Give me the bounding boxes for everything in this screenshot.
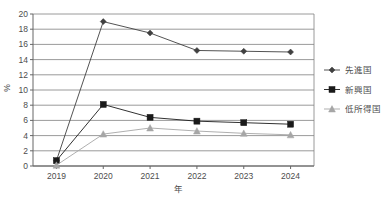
data-series-group: [53, 19, 294, 169]
x-tick-label: 2023: [234, 171, 253, 181]
data-point-marker: [288, 49, 294, 55]
data-point-marker: [147, 30, 153, 36]
legend-marker-icon: [329, 67, 335, 73]
data-point-marker: [100, 19, 106, 25]
chart-container: 02468101214161820 2019202020212022202320…: [0, 0, 392, 198]
plot-gridlines: [33, 14, 314, 166]
y-tick-label: 10: [19, 85, 29, 95]
data-point-marker: [241, 120, 247, 126]
legend-label: 先進国: [345, 65, 372, 75]
data-point-marker: [100, 101, 106, 107]
legend-label: 新興国: [345, 85, 372, 95]
legend-marker-icon: [329, 87, 335, 93]
data-point-marker: [194, 47, 200, 53]
x-tick-label: 2021: [141, 171, 160, 181]
x-axis-title: 年: [174, 184, 183, 194]
data-point-marker: [241, 48, 247, 54]
x-tick-label: 2020: [94, 171, 113, 181]
legend-label: 低所得国: [345, 104, 381, 114]
y-axis-tick-labels: 02468101214161820: [19, 9, 33, 171]
y-tick-label: 6: [23, 115, 28, 125]
data-point-marker: [147, 114, 153, 120]
x-tick-label: 2019: [47, 171, 66, 181]
data-series: [53, 125, 294, 169]
y-tick-label: 12: [19, 70, 29, 80]
series-line: [56, 128, 290, 165]
legend-item[interactable]: 低所得国: [324, 104, 381, 114]
y-tick-label: 2: [23, 146, 28, 156]
data-series: [53, 19, 293, 164]
y-tick-label: 14: [19, 55, 29, 65]
x-tick-label: 2024: [281, 171, 300, 181]
y-tick-label: 16: [19, 39, 29, 49]
y-tick-label: 20: [19, 9, 29, 19]
x-tick-label: 2022: [187, 171, 206, 181]
legend-item[interactable]: 新興国: [324, 85, 372, 95]
data-point-marker: [288, 121, 294, 127]
y-tick-label: 8: [23, 100, 28, 110]
y-tick-label: 4: [23, 131, 28, 141]
series-line: [56, 104, 290, 160]
line-chart: 02468101214161820 2019202020212022202320…: [0, 0, 392, 198]
data-point-marker: [194, 118, 200, 124]
legend-item[interactable]: 先進国: [324, 65, 372, 75]
series-line: [56, 22, 290, 161]
y-tick-label: 18: [19, 24, 29, 34]
y-axis-title: %: [2, 84, 12, 92]
legend: 先進国新興国低所得国: [324, 65, 381, 114]
y-tick-label: 0: [23, 161, 28, 171]
data-series: [53, 101, 293, 163]
x-axis-tick-labels: 201920202021202220232024: [47, 166, 300, 181]
